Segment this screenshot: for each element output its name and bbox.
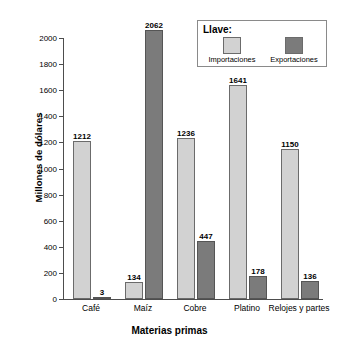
bar-group: 1641178	[229, 38, 267, 299]
x-axis-title: Materias primas	[0, 325, 339, 336]
category-label: Relojes y partes	[269, 303, 330, 313]
bar-exportaciones[interactable]: 2062	[145, 30, 163, 299]
bar-value-label: 3	[100, 288, 104, 297]
bar-value-label: 1641	[229, 76, 247, 85]
y-tick-label: 1000	[39, 164, 57, 173]
y-tick-label: 600	[44, 216, 57, 225]
legend-entry[interactable]: Importaciones	[201, 37, 263, 64]
category-label: Cobre	[183, 303, 206, 313]
bar-exportaciones[interactable]: 3	[93, 297, 111, 299]
y-axis-line	[63, 38, 64, 299]
y-tick-label: 800	[44, 190, 57, 199]
bar-value-label: 2062	[145, 21, 163, 30]
bar-importaciones[interactable]: 1236	[177, 138, 195, 299]
bar-exportaciones[interactable]: 136	[301, 281, 319, 299]
bar-exportaciones[interactable]: 447	[197, 241, 215, 299]
legend-swatch	[285, 37, 303, 54]
y-tick-mark	[59, 38, 63, 39]
y-tick-label: 400	[44, 242, 57, 251]
legend-swatch	[223, 37, 241, 54]
bar-value-label: 178	[251, 267, 264, 276]
bar-value-label: 1212	[73, 132, 91, 141]
bar-group: 1236447	[177, 38, 215, 299]
x-axis-line	[63, 299, 323, 300]
category-label: Maíz	[134, 303, 152, 313]
category-label: Café	[82, 303, 100, 313]
bar-group: 1342062	[125, 38, 163, 299]
legend-label: Exportaciones	[263, 55, 325, 64]
bar-value-label: 136	[303, 272, 316, 281]
bar-importaciones[interactable]: 1212	[73, 141, 91, 299]
legend-label: Importaciones	[201, 55, 263, 64]
bar-value-label: 134	[127, 273, 140, 282]
y-tick-mark	[59, 221, 63, 222]
legend-title: Llave:	[203, 24, 232, 35]
y-tick-label: 1400	[39, 112, 57, 121]
y-tick-label: 2000	[39, 34, 57, 43]
y-tick-mark	[59, 299, 63, 300]
y-tick-label: 200	[44, 268, 57, 277]
y-tick-mark	[59, 169, 63, 170]
bar-group: 12123	[73, 38, 111, 299]
y-tick-label: 1200	[39, 138, 57, 147]
legend-box: Llave: ImportacionesExportaciones	[197, 20, 327, 67]
y-tick-mark	[59, 90, 63, 91]
bar-value-label: 1150	[281, 140, 298, 149]
y-tick-mark	[59, 195, 63, 196]
y-tick-mark	[59, 142, 63, 143]
y-tick-mark	[59, 273, 63, 274]
y-tick-mark	[59, 116, 63, 117]
bar-importaciones[interactable]: 1641	[229, 85, 247, 299]
bar-importaciones[interactable]: 1150	[281, 149, 299, 299]
plot-area: 0200400600800100012001400160018002000 12…	[63, 38, 323, 299]
y-tick-mark	[59, 247, 63, 248]
bar-exportaciones[interactable]: 178	[249, 276, 267, 299]
y-tick-label: 0	[53, 295, 57, 304]
legend-entry[interactable]: Exportaciones	[263, 37, 325, 64]
y-tick-mark	[59, 64, 63, 65]
bar-importaciones[interactable]: 134	[125, 282, 143, 299]
y-tick-label: 1600	[39, 86, 57, 95]
y-tick-label: 1800	[39, 60, 57, 69]
bar-value-label: 447	[199, 232, 212, 241]
bar-chart-figure: Millones de dólares 02004006008001000120…	[0, 0, 339, 353]
category-label: Platino	[234, 303, 260, 313]
bar-group: 1150136	[281, 38, 319, 299]
bar-value-label: 1236	[177, 129, 195, 138]
